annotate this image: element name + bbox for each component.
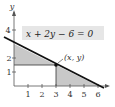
x-axis-arrow-icon [105, 84, 110, 88]
x-tick-5: 5 [81, 90, 86, 99]
x-tick-3: 3 [53, 90, 58, 99]
shaded-left-triangle [14, 44, 56, 65]
point-marker [54, 63, 58, 67]
equation-label: x + 2y − 6 = 0 [26, 29, 93, 39]
y-axis-label: y [9, 2, 15, 11]
x-tick-2: 2 [39, 90, 44, 99]
x-tick-4: 4 [67, 90, 72, 99]
x-tick-6: 6 [95, 90, 100, 99]
point-pointer [58, 59, 63, 63]
point-label: (x, y) [64, 53, 84, 62]
x-tick-1: 1 [25, 90, 30, 99]
y-tick-4: 4 [5, 26, 10, 35]
shaded-right-triangle [56, 65, 98, 86]
graph: 1 2 3 4 5 6 1 2 4 y x + 2y − 6 = 0 (x, y… [0, 0, 115, 107]
y-tick-1: 1 [6, 68, 11, 77]
y-tick-2: 2 [6, 54, 11, 63]
